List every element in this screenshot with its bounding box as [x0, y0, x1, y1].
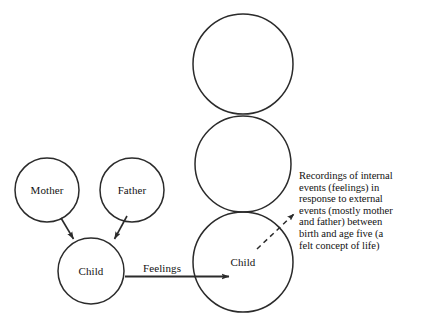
annotation-line-2: events (feelings) in: [299, 182, 421, 194]
edge-label-feelings: Feelings: [143, 262, 181, 274]
annotation-internal-events: Recordings of internal events (feelings)…: [299, 170, 421, 251]
circle-middle: [195, 116, 291, 212]
node-label-father: Father: [85, 184, 179, 196]
annotation-line-6: birth and age five (a: [299, 228, 421, 240]
annotation-line-3: response to external: [299, 193, 421, 205]
node-label-child-left: Child: [44, 265, 138, 277]
node-label-child-right: Child: [196, 256, 290, 268]
node-label-mother: Mother: [0, 184, 94, 196]
annotation-line-7: felt concept of life): [299, 240, 421, 252]
annotation-line-5: and father) between: [299, 216, 421, 228]
annotation-line-4: events (mostly mother: [299, 205, 421, 217]
edge-mother-to-child: [61, 218, 74, 239]
circle-top: [193, 14, 293, 114]
annotation-line-1: Recordings of internal: [299, 170, 421, 182]
diagram-canvas: Mother Father Child Child Feelings Recor…: [0, 0, 423, 320]
edge-annotation-pointer: [257, 214, 294, 249]
